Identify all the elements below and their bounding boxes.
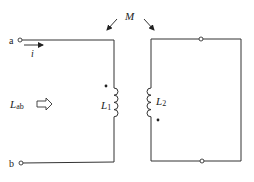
bottom-wire-primary — [22, 162, 114, 163]
inductor-l1-label: L1 — [100, 99, 111, 112]
terminal-b[interactable] — [19, 161, 23, 165]
mutual-arrow-right-icon — [144, 19, 154, 30]
input-inductance-subscript: ab — [16, 102, 24, 111]
polarity-dot-l1 — [105, 85, 108, 88]
inductor-l2-subscript: 2 — [162, 99, 166, 108]
secondary-terminal-top — [199, 37, 203, 41]
mutual-inductance-indicator: M — [107, 10, 154, 30]
input-inductance-label: Lab — [9, 98, 24, 111]
mutual-inductance-label: M — [124, 10, 135, 22]
inductor-l2-coil — [147, 88, 151, 117]
inductor-l2-symbol: L — [155, 95, 162, 107]
circuit-diagram: M i a b Lab L1 L2 — [0, 0, 254, 182]
current-label: i — [31, 48, 34, 59]
secondary-terminal-bottom — [200, 159, 204, 163]
inductor-l1-subscript: 1 — [107, 103, 111, 112]
terminal-a[interactable] — [18, 38, 22, 42]
inductor-l1-symbol: L — [100, 99, 107, 111]
inductor-l2-label: L2 — [155, 95, 166, 108]
input-inductance-symbol: L — [9, 98, 16, 110]
hollow-arrow-icon — [37, 98, 52, 110]
terminal-a-label: a — [9, 35, 14, 46]
mutual-arrow-left-icon — [107, 19, 117, 30]
inductor-l1-coil — [114, 88, 118, 117]
terminal-b-label: b — [9, 158, 14, 169]
polarity-dot-l2 — [157, 119, 160, 122]
